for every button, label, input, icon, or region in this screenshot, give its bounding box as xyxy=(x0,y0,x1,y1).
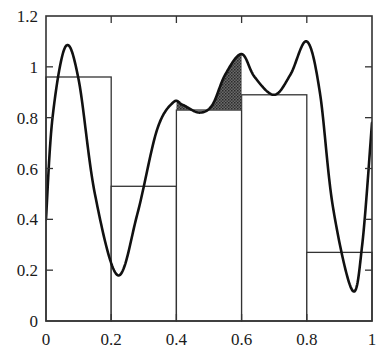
x-tick-label: 0 xyxy=(42,330,51,349)
x-tick-label: 0.6 xyxy=(231,330,252,349)
bar-0.6-0.8 xyxy=(242,95,307,321)
y-tick-label: 1.2 xyxy=(17,7,38,26)
y-tick-label: 0.2 xyxy=(17,261,38,280)
y-tick-label: 0.4 xyxy=(17,210,39,229)
y-tick-label: 1 xyxy=(30,58,39,77)
x-tick-label: 0.4 xyxy=(166,330,188,349)
chart-canvas: 00.20.40.60.811.2 00.20.40.60.81 xyxy=(0,0,390,353)
y-tick-label: 0.8 xyxy=(17,109,38,128)
y-tick-label: 0 xyxy=(30,312,39,331)
y-tick-label: 0.6 xyxy=(17,160,38,179)
bar-0-0.2 xyxy=(46,77,111,321)
x-tick-label: 0.8 xyxy=(296,330,317,349)
bar-0.2-0.4 xyxy=(111,186,176,321)
x-tick-label: 1 xyxy=(368,330,377,349)
bar-0.4-0.6 xyxy=(176,110,241,321)
bar-0.8-1 xyxy=(307,252,372,321)
x-tick-label: 0.2 xyxy=(101,330,122,349)
